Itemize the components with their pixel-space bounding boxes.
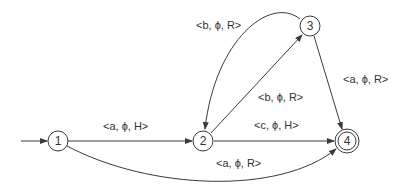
svg-text:4: 4 xyxy=(344,134,351,148)
svg-text:3: 3 xyxy=(307,19,314,33)
label-edge-3-4: <a, ϕ, R> xyxy=(343,73,388,85)
svg-text:1: 1 xyxy=(55,134,62,148)
node-2: 2 xyxy=(193,131,213,151)
node-1: 1 xyxy=(48,131,68,151)
node-4-accepting: 4 xyxy=(335,129,359,153)
state-diagram: 1 2 3 4 <a, ϕ, H> <a, ϕ, R> <b, ϕ, R> <b… xyxy=(0,0,413,188)
svg-text:2: 2 xyxy=(200,134,207,148)
edge-3-4 xyxy=(314,36,342,129)
label-edge-2-4: <c, ϕ, H> xyxy=(254,119,299,131)
node-3: 3 xyxy=(300,16,320,36)
label-edge-1-2: <a, ϕ, H> xyxy=(103,120,148,132)
label-edge-2-3: <b, ϕ, R> xyxy=(258,91,303,103)
label-edge-1-4: <a, ϕ, R> xyxy=(216,157,261,169)
label-edge-3-2: <b, ϕ, R> xyxy=(196,19,241,31)
